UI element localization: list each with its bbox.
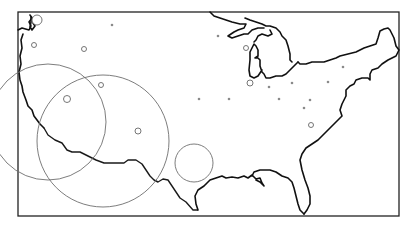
large-circle-markers	[0, 64, 213, 207]
small-circle-marker	[244, 46, 249, 51]
dot-marker	[309, 99, 312, 102]
dot-marker	[228, 98, 231, 101]
small-circle-marker	[82, 47, 87, 52]
great-lakes-outline	[210, 12, 298, 78]
dot-marker	[327, 81, 330, 84]
dot-marker	[278, 98, 281, 101]
dot-marker	[303, 107, 306, 110]
dot-marker	[342, 66, 345, 69]
small-circle-marker	[247, 80, 253, 86]
gulf-coastline	[195, 170, 304, 214]
dot-marker	[268, 86, 271, 89]
small-circle-marker	[32, 43, 37, 48]
us-bubble-map	[0, 0, 414, 230]
west-coastline	[18, 15, 44, 128]
small-circle-marker	[135, 128, 141, 134]
dot-marker	[198, 98, 201, 101]
dot-marker	[217, 35, 220, 38]
small-circle-marker	[32, 15, 42, 25]
map-canvas	[0, 0, 414, 230]
large-circle-marker	[0, 64, 106, 180]
dot-marker	[111, 24, 114, 27]
small-circle-marker	[99, 83, 104, 88]
atlantic-coastline	[298, 28, 399, 214]
small-circle-marker	[64, 96, 71, 103]
large-circle-marker	[175, 144, 213, 182]
small-circle-marker	[309, 123, 314, 128]
dot-marker	[291, 82, 294, 85]
mexico-border	[44, 128, 198, 210]
